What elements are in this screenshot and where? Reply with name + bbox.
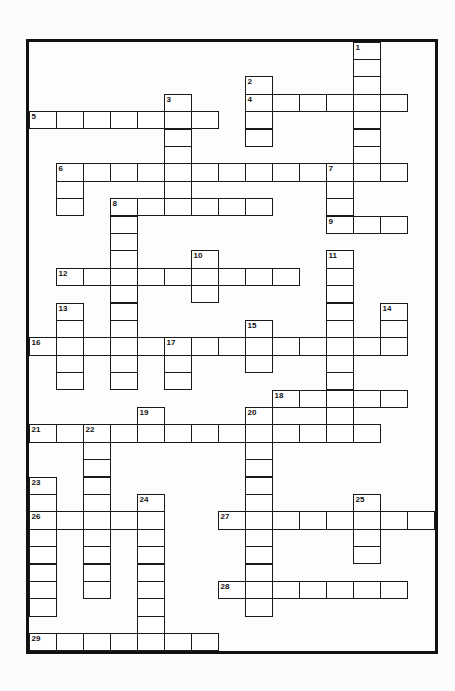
crossword-cell[interactable] xyxy=(83,633,111,651)
crossword-cell[interactable]: 20 xyxy=(245,407,273,425)
crossword-cell[interactable]: 5 xyxy=(29,111,57,129)
crossword-cell[interactable]: 28 xyxy=(218,581,246,599)
crossword-cell[interactable] xyxy=(326,320,354,338)
crossword-cell[interactable]: 19 xyxy=(137,407,165,425)
crossword-cell[interactable] xyxy=(299,390,327,408)
crossword-cell[interactable] xyxy=(164,268,192,286)
crossword-cell[interactable] xyxy=(29,598,57,616)
crossword-cell[interactable] xyxy=(137,529,165,547)
crossword-cell[interactable] xyxy=(191,285,219,303)
crossword-cell[interactable] xyxy=(326,303,354,321)
crossword-cell[interactable] xyxy=(110,268,138,286)
crossword-cell[interactable] xyxy=(29,581,57,599)
crossword-cell[interactable]: 9 xyxy=(326,216,354,234)
crossword-cell[interactable] xyxy=(137,564,165,582)
crossword-cell[interactable] xyxy=(110,285,138,303)
crossword-cell[interactable] xyxy=(326,181,354,199)
crossword-cell[interactable] xyxy=(191,424,219,442)
crossword-cell[interactable] xyxy=(353,581,381,599)
crossword-cell[interactable] xyxy=(137,511,165,529)
crossword-cell[interactable]: 10 xyxy=(191,250,219,268)
crossword-cell[interactable] xyxy=(353,216,381,234)
crossword-cell[interactable] xyxy=(380,390,408,408)
crossword-cell[interactable] xyxy=(245,355,273,373)
crossword-cell[interactable] xyxy=(299,94,327,112)
crossword-cell[interactable] xyxy=(164,355,192,373)
crossword-cell[interactable] xyxy=(29,494,57,512)
crossword-cell[interactable] xyxy=(299,163,327,181)
crossword-cell[interactable] xyxy=(353,76,381,94)
crossword-cell[interactable] xyxy=(137,163,165,181)
crossword-cell[interactable] xyxy=(164,372,192,390)
crossword-cell[interactable] xyxy=(164,181,192,199)
crossword-cell[interactable]: 18 xyxy=(272,390,300,408)
crossword-cell[interactable] xyxy=(353,546,381,564)
crossword-cell[interactable] xyxy=(56,511,84,529)
crossword-cell[interactable] xyxy=(326,390,354,408)
crossword-cell[interactable] xyxy=(110,250,138,268)
crossword-cell[interactable] xyxy=(191,163,219,181)
crossword-cell[interactable]: 22 xyxy=(83,424,111,442)
crossword-cell[interactable]: 27 xyxy=(218,511,246,529)
crossword-cell[interactable]: 12 xyxy=(56,268,84,286)
crossword-cell[interactable] xyxy=(218,198,246,216)
crossword-cell[interactable] xyxy=(83,268,111,286)
crossword-cell[interactable] xyxy=(272,511,300,529)
crossword-cell[interactable] xyxy=(272,163,300,181)
crossword-cell[interactable] xyxy=(83,111,111,129)
crossword-cell[interactable] xyxy=(110,337,138,355)
crossword-cell[interactable] xyxy=(56,111,84,129)
crossword-cell[interactable] xyxy=(245,337,273,355)
crossword-cell[interactable] xyxy=(110,163,138,181)
crossword-cell[interactable] xyxy=(110,111,138,129)
crossword-cell[interactable] xyxy=(353,337,381,355)
crossword-cell[interactable] xyxy=(191,268,219,286)
crossword-cell[interactable] xyxy=(380,163,408,181)
crossword-cell[interactable] xyxy=(245,581,273,599)
crossword-cell[interactable] xyxy=(56,337,84,355)
crossword-cell[interactable] xyxy=(83,477,111,495)
crossword-cell[interactable] xyxy=(245,198,273,216)
crossword-cell[interactable] xyxy=(218,163,246,181)
crossword-cell[interactable]: 15 xyxy=(245,320,273,338)
crossword-cell[interactable] xyxy=(137,337,165,355)
crossword-cell[interactable] xyxy=(83,459,111,477)
crossword-cell[interactable]: 8 xyxy=(110,198,138,216)
crossword-cell[interactable] xyxy=(191,198,219,216)
crossword-cell[interactable] xyxy=(272,268,300,286)
crossword-cell[interactable] xyxy=(83,546,111,564)
crossword-cell[interactable] xyxy=(83,494,111,512)
crossword-cell[interactable] xyxy=(218,337,246,355)
crossword-cell[interactable] xyxy=(245,268,273,286)
crossword-cell[interactable] xyxy=(29,564,57,582)
crossword-cell[interactable] xyxy=(137,198,165,216)
crossword-cell[interactable] xyxy=(83,163,111,181)
crossword-cell[interactable] xyxy=(137,546,165,564)
crossword-cell[interactable]: 14 xyxy=(380,303,408,321)
crossword-cell[interactable] xyxy=(56,372,84,390)
crossword-cell[interactable] xyxy=(83,337,111,355)
crossword-cell[interactable] xyxy=(137,424,165,442)
crossword-cell[interactable] xyxy=(326,355,354,373)
crossword-cell[interactable]: 13 xyxy=(56,303,84,321)
crossword-cell[interactable] xyxy=(56,355,84,373)
crossword-cell[interactable] xyxy=(164,198,192,216)
crossword-cell[interactable] xyxy=(380,581,408,599)
crossword-cell[interactable] xyxy=(245,163,273,181)
crossword-cell[interactable] xyxy=(83,442,111,460)
crossword-cell[interactable] xyxy=(326,511,354,529)
crossword-cell[interactable] xyxy=(110,320,138,338)
crossword-cell[interactable] xyxy=(353,129,381,147)
crossword-cell[interactable] xyxy=(326,424,354,442)
crossword-cell[interactable] xyxy=(326,581,354,599)
crossword-cell[interactable] xyxy=(110,424,138,442)
crossword-cell[interactable] xyxy=(380,94,408,112)
crossword-cell[interactable] xyxy=(326,285,354,303)
crossword-cell[interactable] xyxy=(110,511,138,529)
crossword-cell[interactable] xyxy=(407,511,435,529)
crossword-cell[interactable] xyxy=(353,390,381,408)
crossword-cell[interactable] xyxy=(245,459,273,477)
crossword-cell[interactable] xyxy=(326,94,354,112)
crossword-cell[interactable] xyxy=(380,337,408,355)
crossword-cell[interactable] xyxy=(353,424,381,442)
